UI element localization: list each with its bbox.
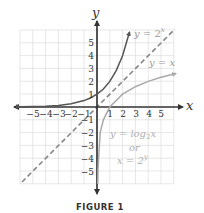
svg-text:3: 3 [88,64,94,74]
svg-text:−5: −5 [81,167,95,177]
svg-text:2: 2 [88,77,94,87]
svg-text:x = 2y: x = 2y [117,153,149,166]
svg-text:−3: −3 [81,141,95,151]
svg-text:or: or [129,142,141,153]
svg-text:4: 4 [146,109,152,119]
svg-text:−2: −2 [81,128,94,138]
svg-text:1: 1 [88,90,94,100]
svg-text:5: 5 [88,38,94,48]
logarithmic-label: y = log2x or x = 2y [109,128,156,166]
svg-text:3: 3 [133,109,139,119]
svg-text:−4: −4 [39,109,53,119]
svg-text:1: 1 [107,109,113,119]
svg-text:4: 4 [88,51,94,61]
svg-text:−1: −1 [81,115,94,125]
exponential-curve [20,32,130,107]
svg-text:y = log2x: y = log2x [109,128,156,141]
svg-text:5: 5 [158,109,164,119]
svg-text:−5: −5 [26,109,40,119]
figure-caption: FIGURE 1 [76,202,124,212]
x-tick-labels: −5 −4 −3 −2 −1 1 2 3 4 5 [26,109,164,119]
identity-label: y = x [148,57,175,68]
exponential-label: y = 2x [133,26,165,39]
svg-text:−4: −4 [81,154,95,164]
svg-text:−2: −2 [64,109,77,119]
figure-canvas: −5 −4 −3 −2 −1 1 2 3 4 5 1 2 3 4 5 −1 −2… [0,0,204,213]
svg-text:2: 2 [120,109,126,119]
y-axis-label: y [91,5,100,20]
x-axis-label: x [186,98,194,113]
